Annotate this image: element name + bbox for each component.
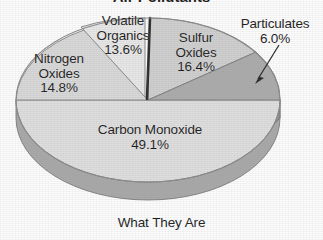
slice-label-nitrogen-oxides-line1: Nitrogen bbox=[34, 51, 84, 66]
slice-value-nitrogen-oxides: 14.8% bbox=[17, 81, 101, 96]
slice-label-sulfur-oxides-line2: Oxides bbox=[175, 45, 216, 60]
slice-label-carbon-monoxide-line1: Carbon Monoxide bbox=[98, 122, 202, 137]
chart-caption: What They Are bbox=[0, 215, 323, 230]
slice-label-particulates: Particulates 6.0% bbox=[228, 17, 322, 46]
pie-chart-figure: Air Pollutants bbox=[0, 0, 323, 240]
slice-label-volatile-organics: Volatile Organics 13.6% bbox=[84, 14, 162, 58]
slice-label-carbon-monoxide: Carbon Monoxide 49.1% bbox=[72, 123, 228, 152]
slice-label-nitrogen-oxides: Nitrogen Oxides 14.8% bbox=[17, 52, 101, 96]
slice-label-sulfur-oxides-line1: Sulfur bbox=[179, 30, 213, 45]
slice-label-volatile-organics-line2: Organics bbox=[97, 28, 150, 43]
slice-label-volatile-organics-line1: Volatile bbox=[102, 13, 144, 28]
chart-title-fragment: Air Pollutants bbox=[0, 0, 323, 2]
slice-label-sulfur-oxides: Sulfur Oxides 16.4% bbox=[163, 31, 229, 75]
slice-value-particulates: 6.0% bbox=[228, 32, 322, 47]
slice-label-particulates-line1: Particulates bbox=[241, 16, 310, 31]
slice-value-sulfur-oxides: 16.4% bbox=[163, 60, 229, 75]
slice-label-nitrogen-oxides-line2: Oxides bbox=[38, 66, 79, 81]
slice-value-carbon-monoxide: 49.1% bbox=[72, 138, 228, 153]
